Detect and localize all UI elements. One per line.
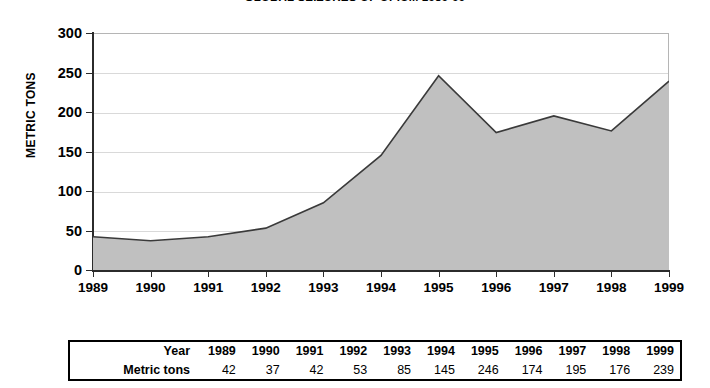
area-fill bbox=[93, 76, 669, 270]
x-tick-mark bbox=[611, 271, 612, 277]
x-tick-label: 1992 bbox=[236, 281, 296, 295]
x-tick-label: 1989 bbox=[63, 281, 123, 295]
x-tick-mark bbox=[151, 271, 152, 277]
table-row-label: Metric tons bbox=[70, 361, 198, 380]
table-row: Metric tons4237425385145246174195176239 bbox=[70, 361, 680, 380]
x-tick-mark bbox=[496, 271, 497, 277]
y-tick-mark bbox=[86, 112, 93, 113]
y-tick-mark bbox=[86, 191, 93, 192]
table-row: Year198919901991199219931994199519961997… bbox=[70, 342, 680, 361]
x-tick-mark bbox=[93, 271, 94, 277]
table-cell: 1994 bbox=[417, 342, 461, 361]
table-cell: 53 bbox=[329, 361, 373, 380]
y-tick-label: 150 bbox=[22, 145, 82, 160]
y-tick-label: 300 bbox=[22, 26, 82, 41]
x-tick-label: 1994 bbox=[351, 281, 411, 295]
y-tick-label: 50 bbox=[22, 224, 82, 239]
data-table: Year198919901991199219931994199519961997… bbox=[70, 342, 680, 379]
table-cell: 174 bbox=[505, 361, 549, 380]
y-tick-mark bbox=[86, 152, 93, 153]
y-tick-label: 250 bbox=[22, 66, 82, 81]
table-cell: 145 bbox=[417, 361, 461, 380]
table-cell: 1996 bbox=[505, 342, 549, 361]
y-tick-label: 0 bbox=[22, 263, 82, 278]
x-tick-label: 1998 bbox=[581, 281, 641, 295]
table-cell: 195 bbox=[549, 361, 593, 380]
table-cell: 239 bbox=[636, 361, 680, 380]
y-tick-mark bbox=[86, 33, 93, 34]
table-cell: 42 bbox=[286, 361, 330, 380]
table-cell: 1998 bbox=[592, 342, 636, 361]
x-tick-mark bbox=[381, 271, 382, 277]
y-tick-label: 200 bbox=[22, 105, 82, 120]
x-tick-label: 1991 bbox=[178, 281, 238, 295]
table-cell: 246 bbox=[461, 361, 505, 380]
y-tick-mark bbox=[86, 231, 93, 232]
table-cell: 85 bbox=[373, 361, 417, 380]
table-cell: 1999 bbox=[636, 342, 680, 361]
area-series bbox=[93, 33, 669, 270]
x-tick-label: 1995 bbox=[409, 281, 469, 295]
table-cell: 1992 bbox=[329, 342, 373, 361]
y-tick-label: 100 bbox=[22, 184, 82, 199]
table-row-label: Year bbox=[70, 342, 198, 361]
data-table-container: Year198919901991199219931994199519961997… bbox=[68, 340, 682, 381]
y-tick-mark bbox=[86, 73, 93, 74]
table-cell: 176 bbox=[592, 361, 636, 380]
x-tick-mark bbox=[266, 271, 267, 277]
table-cell: 1995 bbox=[461, 342, 505, 361]
table-cell: 1990 bbox=[242, 342, 286, 361]
table-cell: 1991 bbox=[286, 342, 330, 361]
x-tick-mark bbox=[323, 271, 324, 277]
table-cell: 1993 bbox=[373, 342, 417, 361]
y-tick-mark bbox=[86, 270, 93, 271]
x-tick-label: 1993 bbox=[293, 281, 353, 295]
x-tick-label: 1996 bbox=[466, 281, 526, 295]
x-tick-mark bbox=[554, 271, 555, 277]
table-cell: 37 bbox=[242, 361, 286, 380]
chart-title: GLOBAL SEIZURES OF OPIUM 1989-99 bbox=[0, 0, 710, 3]
table-cell: 42 bbox=[198, 361, 242, 380]
x-tick-label: 1999 bbox=[639, 281, 699, 295]
x-tick-mark bbox=[208, 271, 209, 277]
x-tick-mark bbox=[439, 271, 440, 277]
x-tick-label: 1997 bbox=[524, 281, 584, 295]
x-tick-mark bbox=[669, 271, 670, 277]
table-cell: 1997 bbox=[549, 342, 593, 361]
table-cell: 1989 bbox=[198, 342, 242, 361]
x-tick-label: 1990 bbox=[121, 281, 181, 295]
